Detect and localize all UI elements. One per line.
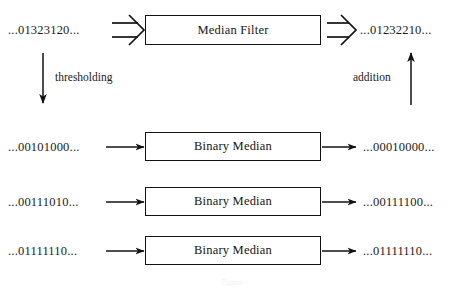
binary-median-box-2[interactable]: Binary Median [145, 187, 321, 216]
binary-row-3-input-signal: ...01111110... [8, 244, 77, 259]
diagram-canvas: ...01323120... Median Filter ...01232210… [0, 0, 464, 287]
median-filter-box[interactable]: Median Filter [145, 15, 321, 45]
binary-median-label-1: Binary Median [194, 139, 272, 154]
binary-row-2-output-signal: ...00111100... [363, 195, 433, 210]
addition-label: addition [353, 71, 391, 83]
binary-median-label-2: Binary Median [194, 194, 272, 209]
thresholding-label: thresholding [55, 71, 113, 83]
figure-caption: Figure [0, 278, 464, 287]
binary-median-label-3: Binary Median [194, 243, 272, 258]
median-filter-label: Median Filter [198, 23, 269, 38]
top-input-signal: ...01323120... [8, 23, 80, 38]
binary-row-2-input-signal: ...00111010... [8, 195, 79, 210]
double-arrow-right-icon-output [327, 15, 356, 45]
double-arrow-right-icon-input [112, 15, 144, 45]
binary-row-1-output-signal: ...00010000... [363, 140, 435, 155]
top-output-signal: ...01232210... [360, 23, 432, 38]
binary-median-box-1[interactable]: Binary Median [145, 132, 321, 161]
binary-row-1-input-signal: ...00101000... [8, 140, 80, 155]
binary-median-box-3[interactable]: Binary Median [145, 236, 321, 265]
binary-row-3-output-signal: ...01111110... [363, 244, 432, 259]
